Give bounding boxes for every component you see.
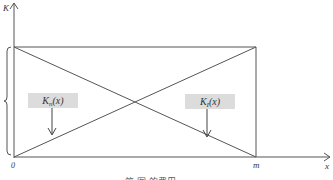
figure-caption: 第 图 的费用 bbox=[125, 176, 176, 180]
origin-label: 0 bbox=[11, 161, 15, 170]
m-label: m bbox=[253, 160, 260, 170]
cost-diagram: Kn(x) KI(x) K x 0 m 第 图 的费用 bbox=[0, 0, 333, 180]
brace-icon bbox=[4, 47, 11, 155]
y-axis-label: K bbox=[2, 3, 10, 13]
x-axis-label: x bbox=[324, 161, 329, 171]
